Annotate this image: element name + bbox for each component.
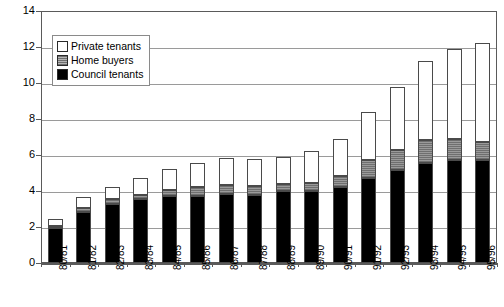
x-tick-mark <box>98 263 99 267</box>
bar-segment[interactable] <box>276 184 291 191</box>
bar-segment[interactable] <box>247 159 262 186</box>
x-tick-label: 94/95 <box>458 245 468 270</box>
bar-group[interactable] <box>247 11 262 263</box>
home-swatch-icon <box>57 55 68 66</box>
bar-segment[interactable] <box>304 183 319 191</box>
y-tick-label: 0 <box>5 257 35 268</box>
legend-label: Private tenants <box>71 40 141 52</box>
bar-group[interactable] <box>447 11 462 263</box>
x-tick-mark <box>184 263 185 267</box>
y-tick-label: 6 <box>5 149 35 160</box>
legend-label: Home buyers <box>71 54 133 66</box>
stacked-bar-chart: £ billion (1993 prices) 02468101214 80/8… <box>0 0 504 307</box>
x-tick-mark <box>212 263 213 267</box>
x-tick-label: 85/86 <box>202 245 212 270</box>
x-tick-label: 95/96 <box>487 245 497 270</box>
x-tick-label: 83/84 <box>145 245 155 270</box>
x-tick-mark <box>469 263 470 267</box>
bar-segment[interactable] <box>247 186 262 195</box>
x-tick-label: 87/88 <box>259 245 269 270</box>
y-tick-label: 10 <box>5 77 35 88</box>
x-tick-label: 89/90 <box>316 245 326 270</box>
legend-label: Council tenants <box>71 68 143 80</box>
x-tick-label: 82/83 <box>116 245 126 270</box>
x-tick-label: 90/91 <box>344 245 354 270</box>
bar-segment[interactable] <box>390 87 405 150</box>
bar-segment[interactable] <box>276 157 291 184</box>
x-tick-label: 91/92 <box>373 245 383 270</box>
y-tick-label: 12 <box>5 41 35 52</box>
bar-group[interactable] <box>390 11 405 263</box>
x-tick-mark <box>383 263 384 267</box>
bar-segment[interactable] <box>76 197 91 208</box>
bar-segment[interactable] <box>76 208 91 212</box>
x-tick-label: 93/94 <box>430 245 440 270</box>
bar-segment[interactable] <box>418 140 433 163</box>
bar-segment[interactable] <box>105 199 120 204</box>
bar-segment[interactable] <box>418 61 433 139</box>
x-tick-mark <box>326 263 327 267</box>
x-tick-mark <box>298 263 299 267</box>
bar-group[interactable] <box>162 11 177 263</box>
x-tick-mark <box>127 263 128 267</box>
bar-segment[interactable] <box>133 195 148 200</box>
bar-segment[interactable] <box>219 185 234 194</box>
bar-segment[interactable] <box>219 158 234 185</box>
bar-group[interactable] <box>304 11 319 263</box>
x-tick-label: 80/81 <box>59 245 69 270</box>
x-tick-mark <box>355 263 356 267</box>
bar-segment[interactable] <box>475 43 490 141</box>
bar-segment[interactable] <box>162 190 177 196</box>
bar-segment[interactable] <box>190 187 205 195</box>
bar-segment[interactable] <box>133 178 148 195</box>
bar-segment[interactable] <box>361 160 376 179</box>
bar-segment[interactable] <box>361 112 376 160</box>
bar-segment[interactable] <box>48 226 63 228</box>
x-tick-mark <box>41 263 42 267</box>
bar-segment[interactable] <box>333 139 348 176</box>
bar-segment[interactable] <box>447 139 462 160</box>
y-tick-label: 2 <box>5 221 35 232</box>
chart-legend: Private tenantsHome buyersCouncil tenant… <box>52 35 150 86</box>
x-tick-mark <box>269 263 270 267</box>
legend-item: Home buyers <box>57 53 143 67</box>
bar-group[interactable] <box>418 11 433 263</box>
x-tick-label: 86/87 <box>230 245 240 270</box>
bar-segment[interactable] <box>333 176 348 187</box>
bar-group[interactable] <box>333 11 348 263</box>
bar-segment[interactable] <box>304 151 319 183</box>
bar-segment[interactable] <box>475 142 490 160</box>
bar-group[interactable] <box>219 11 234 263</box>
x-tick-mark <box>440 263 441 267</box>
bar-group[interactable] <box>361 11 376 263</box>
x-tick-mark <box>241 263 242 267</box>
y-tick-label: 4 <box>5 185 35 196</box>
y-tick-label: 14 <box>5 5 35 16</box>
x-tick-mark <box>70 263 71 267</box>
bar-group[interactable] <box>190 11 205 263</box>
bar-segment[interactable] <box>105 187 120 200</box>
bar-group[interactable] <box>475 11 490 263</box>
private-swatch-icon <box>57 41 68 52</box>
council-swatch-icon <box>57 69 68 80</box>
y-tick-label: 8 <box>5 113 35 124</box>
bar-segment[interactable] <box>162 169 177 190</box>
x-tick-mark <box>497 263 498 267</box>
legend-item: Private tenants <box>57 39 143 53</box>
x-tick-label: 84/85 <box>173 245 183 270</box>
x-tick-label: 88/89 <box>287 245 297 270</box>
x-tick-label: 81/82 <box>88 245 98 270</box>
bar-segment[interactable] <box>190 163 205 187</box>
x-tick-label: 92/93 <box>401 245 411 270</box>
x-tick-mark <box>412 263 413 267</box>
bar-group[interactable] <box>276 11 291 263</box>
bar-segment[interactable] <box>447 49 462 139</box>
legend-item: Council tenants <box>57 67 143 81</box>
bar-segment[interactable] <box>48 219 63 226</box>
x-tick-mark <box>155 263 156 267</box>
bar-segment[interactable] <box>390 150 405 171</box>
